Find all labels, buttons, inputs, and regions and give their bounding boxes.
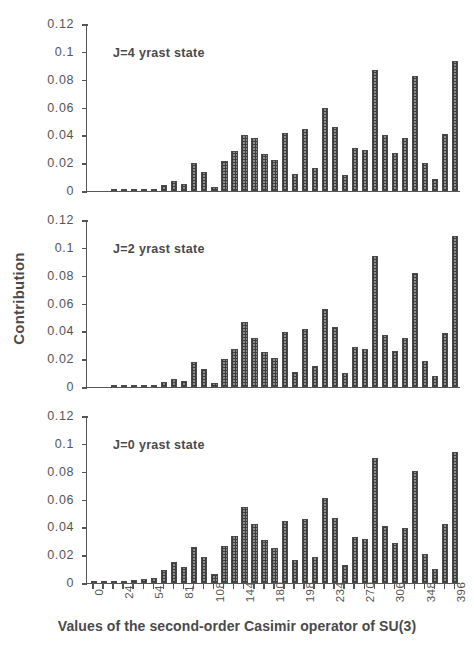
bar-cell xyxy=(400,24,410,191)
x-tick-label-cell: 180 xyxy=(269,590,279,642)
bar xyxy=(312,557,318,583)
bars-j2 xyxy=(87,220,460,387)
bar xyxy=(151,189,157,191)
bar-cell xyxy=(229,220,239,387)
bar xyxy=(282,332,288,387)
bar-cell xyxy=(430,220,440,387)
bar-cell xyxy=(430,416,440,583)
y-tick-j4-0: 0.12 xyxy=(82,24,87,26)
bar-cell xyxy=(99,220,109,387)
x-tick-cell xyxy=(379,584,389,589)
bar-cell xyxy=(450,416,460,583)
bar xyxy=(231,536,237,583)
bar xyxy=(251,524,257,583)
y-tick-label-j4-1: 0.1 xyxy=(55,45,74,59)
x-tick xyxy=(444,584,446,589)
bar-cell xyxy=(390,416,400,583)
bar xyxy=(131,189,137,191)
bar xyxy=(392,351,398,387)
bar-cell xyxy=(330,220,340,387)
y-tick-j0-1: 0.1 xyxy=(82,444,87,446)
bar xyxy=(302,519,308,583)
bar xyxy=(111,581,117,583)
x-tick-label-cell xyxy=(349,590,359,642)
x-tick xyxy=(414,584,416,589)
bar-cell xyxy=(410,24,420,191)
bar-cell xyxy=(109,24,119,191)
y-tick-label-j0-3: 0.06 xyxy=(47,493,74,507)
bar-cell xyxy=(440,220,450,387)
bar xyxy=(271,548,277,583)
bar-cell xyxy=(99,416,109,583)
bar-cell xyxy=(380,24,390,191)
bar-cell xyxy=(350,220,360,387)
bar xyxy=(452,236,458,387)
x-tick-label-cell xyxy=(369,590,379,642)
bar xyxy=(442,134,448,191)
bar-cell xyxy=(179,220,189,387)
bar-cell xyxy=(270,416,280,583)
bar-cell xyxy=(360,24,370,191)
bar xyxy=(312,168,318,191)
bar xyxy=(292,174,298,191)
x-tick-label-cell: 270 xyxy=(359,590,369,642)
bar xyxy=(211,383,217,387)
x-tick-label-cell: 144 xyxy=(239,590,249,642)
bar-cell xyxy=(219,24,229,191)
bar-cell xyxy=(430,24,440,191)
x-tick-label-cell: 234 xyxy=(329,590,339,642)
figure-root: Contribution J=4 yrast state 0.120.10.08… xyxy=(0,0,474,645)
y-tick-label-j2-0: 0.12 xyxy=(47,213,74,227)
bar xyxy=(121,581,127,584)
x-tick-cell xyxy=(199,584,209,589)
bar xyxy=(191,547,197,583)
bar-cell xyxy=(290,220,300,387)
y-tick-j0-4: 0.04 xyxy=(82,527,87,529)
bar xyxy=(372,256,378,387)
bar-cell xyxy=(310,220,320,387)
x-tick-label-cell xyxy=(279,590,289,642)
x-tick xyxy=(173,584,175,589)
bar-cell xyxy=(440,24,450,191)
bar-cell xyxy=(129,24,139,191)
bar xyxy=(231,151,237,191)
y-tick-j2-1: 0.1 xyxy=(82,248,87,250)
x-tick-label-cell: 396 xyxy=(450,590,460,642)
y-tick-label-j4-3: 0.06 xyxy=(47,101,74,115)
bar-cell xyxy=(350,416,360,583)
x-tick xyxy=(323,584,325,589)
x-tick-label-cell: 54 xyxy=(148,590,158,642)
bar-cell xyxy=(209,416,219,583)
bar-cell xyxy=(290,24,300,191)
y-tick-label-j4-4: 0.04 xyxy=(47,128,74,142)
y-tick-label-j2-3: 0.06 xyxy=(47,297,74,311)
bar xyxy=(161,185,167,191)
bar-cell xyxy=(129,416,139,583)
bar xyxy=(362,539,368,583)
bar xyxy=(372,458,378,583)
bar-cell xyxy=(400,416,410,583)
x-tick-label-cell xyxy=(339,590,349,642)
bar xyxy=(261,352,267,387)
bar-cell xyxy=(350,24,360,191)
bar xyxy=(261,154,267,191)
panel-j0: J=0 yrast state 0.120.10.080.060.040.020 xyxy=(86,416,460,584)
bar-cell xyxy=(189,24,199,191)
y-tick-j4-6: 0 xyxy=(82,191,87,193)
bar xyxy=(332,327,338,387)
bar xyxy=(352,537,358,583)
bar xyxy=(241,322,247,387)
bar-cell xyxy=(239,416,249,583)
bar-cell xyxy=(320,220,330,387)
x-tick-cell xyxy=(440,584,450,589)
bar xyxy=(251,338,257,387)
bar-cell xyxy=(139,220,149,387)
bar xyxy=(322,309,328,387)
bar-cell xyxy=(380,416,390,583)
bar xyxy=(151,578,157,583)
bar xyxy=(342,373,348,387)
x-tick-label-cell xyxy=(98,590,108,642)
y-tick-label-j2-5: 0.02 xyxy=(47,352,74,366)
x-tick-label-cell xyxy=(259,590,269,642)
bar-cell xyxy=(239,220,249,387)
